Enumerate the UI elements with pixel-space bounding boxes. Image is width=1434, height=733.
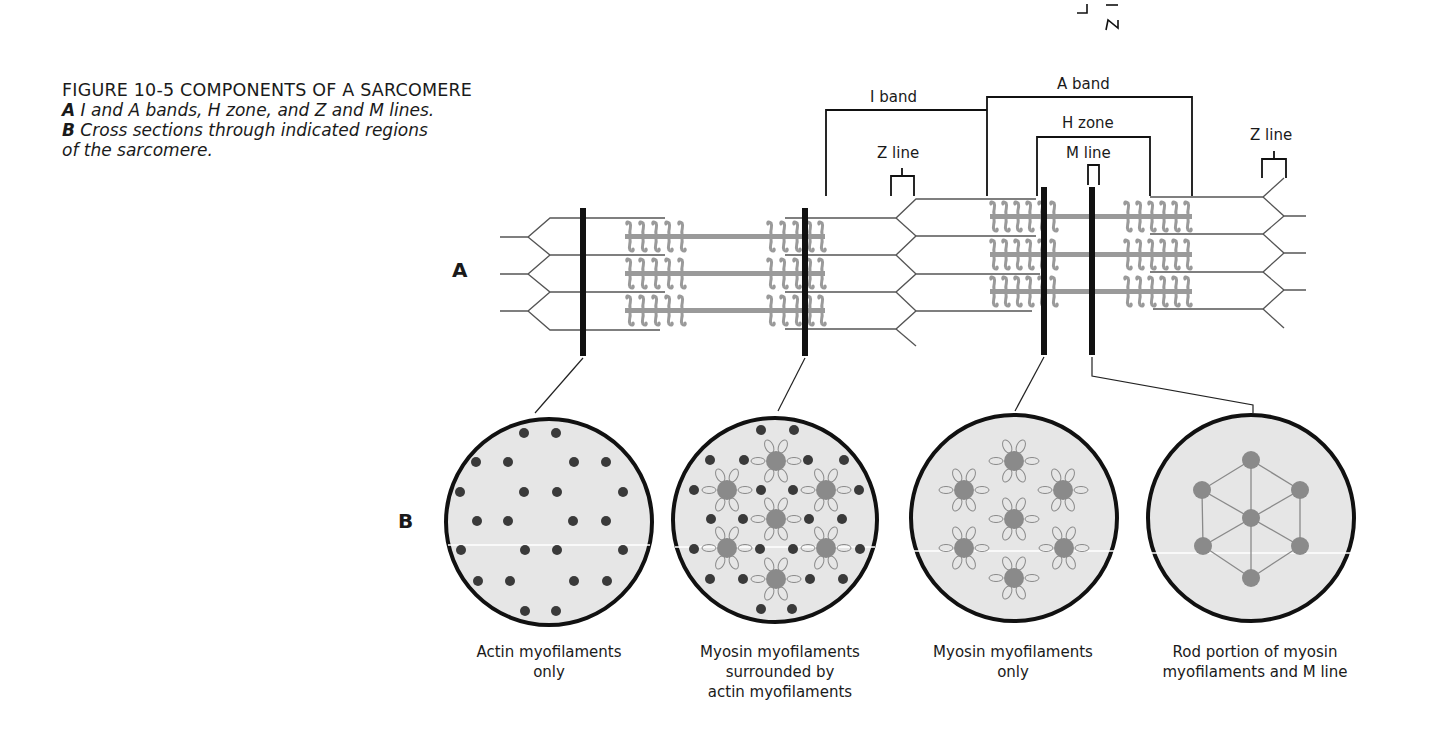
section-bar-3 xyxy=(1041,187,1047,355)
label-line: Myosin myofilaments xyxy=(670,642,890,662)
cross-section-actin-only xyxy=(446,419,652,625)
cross-section-myosin-and-actin xyxy=(673,418,877,622)
a-band-bracket xyxy=(987,97,1192,196)
label-line: actin myofilaments xyxy=(670,682,890,702)
corner-marks xyxy=(1077,4,1118,30)
myosin-filaments xyxy=(625,202,1192,325)
band-brackets xyxy=(826,97,1286,196)
cross-section-myosin-only xyxy=(911,415,1117,621)
section-bar-4 xyxy=(1089,187,1095,355)
cross-section-label-actin-only: Actin myofilaments only xyxy=(439,642,659,682)
label-line: myofilaments and M line xyxy=(1145,662,1365,682)
cross-section-label-myosin-only: Myosin myofilaments only xyxy=(903,642,1123,682)
label-line: Rod portion of myosin xyxy=(1145,642,1365,662)
label-line: surrounded by xyxy=(670,662,890,682)
label-line: Actin myofilaments xyxy=(439,642,659,662)
section-bar-2 xyxy=(802,208,808,356)
i-band-bracket xyxy=(826,110,987,196)
cross-section-label-myosin-and-actin: Myosin myofilaments surrounded by actin … xyxy=(670,642,890,702)
z-line-bracket-right xyxy=(1262,151,1286,178)
sarcomere-diagram xyxy=(0,0,1434,733)
section-bar-1 xyxy=(580,208,586,356)
cross-section-label-m-line: Rod portion of myosin myofilaments and M… xyxy=(1145,642,1365,682)
m-line-bracket xyxy=(1088,165,1099,185)
leader-lines xyxy=(535,357,1253,413)
label-line: only xyxy=(439,662,659,682)
label-line: Myosin myofilaments xyxy=(903,642,1123,662)
cross-section-m-line xyxy=(1148,415,1354,621)
label-line: only xyxy=(903,662,1123,682)
z-line-bracket-left xyxy=(891,168,914,196)
